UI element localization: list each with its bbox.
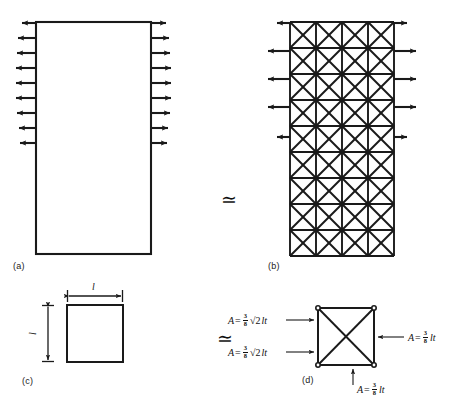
panel-label-d: (d) <box>302 375 314 385</box>
formula-diagonal-upper: A = 3 8 √2 lt <box>228 313 267 327</box>
formula-edge-bottom-fraction: 3 8 <box>372 382 377 396</box>
panel-b-truss <box>268 22 416 256</box>
formula-edge-right-denominator: 8 <box>423 337 428 345</box>
unit-cell-outline <box>67 305 123 362</box>
height-dimension-line <box>42 306 54 362</box>
formula-diagonal-upper-denominator: 8 <box>243 320 248 328</box>
formula-diagonal-upper-factor: lt <box>262 315 268 326</box>
formula-diagonal-lower-fraction: 3 8 <box>243 345 248 359</box>
formula-edge-bottom: A = 3 8 lt <box>357 382 385 396</box>
formula-edge-right-fraction: 3 8 <box>423 330 428 344</box>
plate-outline <box>36 22 151 254</box>
formula-diagonal-upper-radical: √2 <box>250 315 261 326</box>
formula-edge-right: A = 3 8 lt <box>408 330 436 344</box>
equivalence-symbol-a-b: ≃ <box>221 190 237 209</box>
formula-diagonal-lower-radical: √2 <box>250 347 261 358</box>
formula-diagonal-lower-relation: = <box>235 347 241 358</box>
formula-diagonal-lower-factor: lt <box>262 347 268 358</box>
unit-cell-width-label: l <box>92 281 95 292</box>
panel-a-plate <box>16 22 171 254</box>
formula-diagonal-lower: A = 3 8 √2 lt <box>228 345 267 359</box>
panel-d-member-areas <box>286 306 404 385</box>
width-dimension-line <box>68 290 123 302</box>
formula-diagonal-lower-numerator: 3 <box>243 345 248 352</box>
formula-diagonal-upper-relation: = <box>235 315 241 326</box>
panel-label-b: (b) <box>268 261 280 271</box>
formula-diagonal-upper-fraction: 3 8 <box>243 313 248 327</box>
panel-c-unit-cell <box>42 290 123 362</box>
panel-label-a: (a) <box>13 261 25 271</box>
plate-left-load-arrows <box>16 23 36 143</box>
formula-edge-bottom-denominator: 8 <box>372 389 377 397</box>
plate-right-load-arrows <box>151 23 171 143</box>
formula-diagonal-lower-lhs: A <box>228 347 234 358</box>
formula-diagonal-lower-denominator: 8 <box>243 352 248 360</box>
formula-edge-right-relation: = <box>415 332 421 343</box>
formula-edge-right-factor: lt <box>430 332 436 343</box>
truss-right-load-arrows <box>394 23 416 137</box>
panel-label-c: (c) <box>22 376 33 386</box>
formula-edge-bottom-factor: lt <box>379 384 385 395</box>
formula-edge-bottom-lhs: A <box>357 384 363 395</box>
formula-diagonal-upper-lhs: A <box>228 315 234 326</box>
formula-edge-bottom-relation: = <box>364 384 370 395</box>
formula-edge-right-numerator: 3 <box>423 330 428 337</box>
truss-left-load-arrows <box>268 23 290 137</box>
formula-edge-right-lhs: A <box>408 332 414 343</box>
formula-diagonal-upper-numerator: 3 <box>243 313 248 320</box>
unit-cell-height-label: l <box>27 332 38 335</box>
formula-edge-bottom-numerator: 3 <box>372 382 377 389</box>
